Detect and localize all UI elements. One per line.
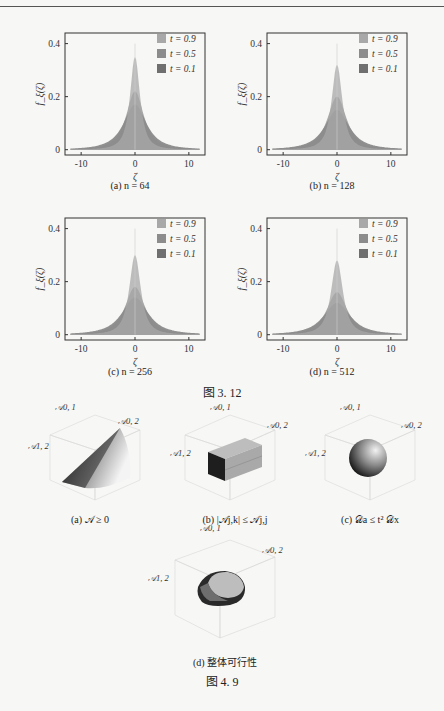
legend-swatch <box>157 249 166 258</box>
axis-label-a02: 𝒜0, 2 <box>262 545 283 556</box>
feasible-set-intersection-panel: 𝒜0, 1 𝒜0, 2 𝒜1, 2 <box>150 535 290 645</box>
chart-panel-c: 00.20.4-10010ζf_ξ(ζ)t = 0.9t = 0.5t = 0.… <box>20 210 220 380</box>
legend-swatch <box>359 249 368 258</box>
figure-4-9-title: 图 4. 9 <box>172 672 272 690</box>
y-axis-label: f_ξ(ζ) <box>34 267 46 290</box>
y-tick-label: 0.2 <box>250 277 262 287</box>
legend-swatch <box>157 234 166 243</box>
chart-caption-b: (b) n = 128 <box>282 180 382 191</box>
y-axis-label: f_ξ(ζ) <box>34 82 46 105</box>
legend-label: t = 0.1 <box>170 64 196 74</box>
y-tick-label: 0.4 <box>250 39 262 49</box>
axis-label-a01: 𝒜0, 1 <box>200 523 221 534</box>
feasible-set-sphere-panel: 𝒜0, 1 𝒜0, 2 𝒜1, 2 <box>295 400 435 510</box>
x-tick-label: 10 <box>184 159 194 169</box>
plot-area <box>70 44 199 150</box>
legend-swatch <box>359 219 368 228</box>
plot-area <box>272 44 401 150</box>
legend-swatch <box>157 64 166 73</box>
legend: t = 0.9t = 0.5t = 0.1 <box>359 34 398 74</box>
y-axis-label: f_ξ(ζ) <box>236 82 248 105</box>
x-tick-label: -10 <box>75 159 88 169</box>
y-axis-label: f_ξ(ζ) <box>236 267 248 290</box>
y-tick-label: 0.4 <box>48 224 60 234</box>
chart-caption-d: (d) n = 512 <box>282 366 382 377</box>
feasible-caption-d: (d) 整体可行性 <box>180 654 270 669</box>
legend: t = 0.9t = 0.5t = 0.1 <box>157 34 196 74</box>
chart-caption-a: (a) n = 64 <box>80 180 180 191</box>
legend-label: t = 0.1 <box>170 249 196 259</box>
axis-label-a02: 𝒜0, 2 <box>401 420 422 431</box>
intersection-shape <box>198 571 246 606</box>
plot-area <box>272 229 401 335</box>
axis-label-a12: 𝒜1, 2 <box>170 448 191 459</box>
axis-label-a12: 𝒜1, 2 <box>28 441 49 452</box>
chart-panel-b: 00.20.4-10010ζf_ξ(ζ)t = 0.9t = 0.5t = 0.… <box>222 25 422 195</box>
chart-panel-a: 00.20.4-10010ζf_ξ(ζ)t = 0.9t = 0.5t = 0.… <box>20 25 220 195</box>
y-tick-label: 0 <box>257 330 262 340</box>
legend-swatch <box>359 64 368 73</box>
figure-3-12-title: 图 3. 12 <box>172 383 272 401</box>
y-tick-label: 0.2 <box>48 92 60 102</box>
legend-swatch <box>359 34 368 43</box>
legend-label: t = 0.5 <box>372 234 398 244</box>
feasible-set-box-panel: 𝒜0, 1 𝒜0, 2 𝒜1, 2 <box>155 400 295 510</box>
y-tick-label: 0.4 <box>48 39 60 49</box>
x-tick-label: -10 <box>277 344 290 354</box>
feasible-caption-c: (c) 𝒟a ≤ t² 𝒟x <box>325 514 415 526</box>
feasible-set-cone-panel: 𝒜0, 1 𝒜0, 2 𝒜1, 2 <box>20 400 160 510</box>
x-tick-label: 10 <box>386 159 396 169</box>
x-tick-label: 10 <box>184 344 194 354</box>
legend-label: t = 0.5 <box>372 49 398 59</box>
axis-label-a12: 𝒜1, 2 <box>305 448 326 459</box>
legend-label: t = 0.9 <box>170 34 196 44</box>
feasible-caption-a: (a) 𝒜 ≥ 0 <box>50 514 130 526</box>
chart-caption-c: (c) n = 256 <box>80 366 180 377</box>
y-tick-label: 0 <box>55 330 60 340</box>
legend: t = 0.9t = 0.5t = 0.1 <box>157 219 196 259</box>
page-header-rule <box>0 6 444 7</box>
legend-swatch <box>157 219 166 228</box>
y-tick-label: 0.4 <box>250 224 262 234</box>
legend-label: t = 0.5 <box>170 49 196 59</box>
legend-label: t = 0.1 <box>372 249 398 259</box>
x-tick-label: 10 <box>386 344 396 354</box>
sphere-shape <box>349 439 387 477</box>
legend-swatch <box>359 49 368 58</box>
axis-label-a01: 𝒜0, 1 <box>340 402 361 413</box>
legend-swatch <box>157 34 166 43</box>
y-tick-label: 0 <box>55 145 60 155</box>
x-tick-label: -10 <box>75 344 88 354</box>
x-tick-label: -10 <box>277 159 290 169</box>
legend-label: t = 0.5 <box>170 234 196 244</box>
y-tick-label: 0 <box>257 145 262 155</box>
legend-swatch <box>157 49 166 58</box>
axis-label-a01: 𝒜0, 1 <box>55 402 76 413</box>
legend-label: t = 0.9 <box>372 219 398 229</box>
legend-label: t = 0.1 <box>372 64 398 74</box>
axis-label-a02: 𝒜0, 2 <box>118 416 139 427</box>
legend-label: t = 0.9 <box>372 34 398 44</box>
box-shape <box>208 438 262 481</box>
axis-label-a02: 𝒜0, 2 <box>267 420 288 431</box>
legend: t = 0.9t = 0.5t = 0.1 <box>359 219 398 259</box>
x-tick-label: 0 <box>133 344 138 354</box>
chart-panel-d: 00.20.4-10010ζf_ξ(ζ)t = 0.9t = 0.5t = 0.… <box>222 210 422 380</box>
axis-label-a12: 𝒜1, 2 <box>148 573 169 584</box>
x-tick-label: 0 <box>335 159 340 169</box>
x-tick-label: 0 <box>133 159 138 169</box>
axis-label-a01: 𝒜0, 1 <box>210 402 231 413</box>
y-tick-label: 0.2 <box>250 92 262 102</box>
plot-area <box>70 229 199 335</box>
legend-label: t = 0.9 <box>170 219 196 229</box>
x-tick-label: 0 <box>335 344 340 354</box>
legend-swatch <box>359 234 368 243</box>
y-tick-label: 0.2 <box>48 277 60 287</box>
